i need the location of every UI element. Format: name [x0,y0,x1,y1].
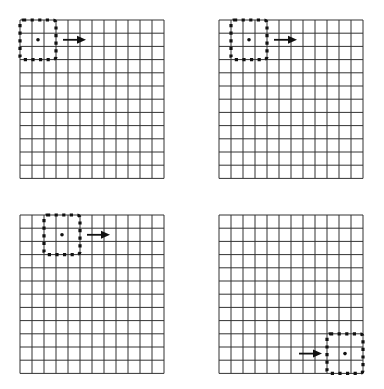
grid-panel-bottom-right [213,209,369,379]
grid-panel-bottom-left [14,209,170,379]
window-center-dot [343,352,347,356]
window-center-dot [36,38,40,42]
grid [14,209,170,379]
arrow-right-icon [63,36,86,44]
arrow-right-icon [87,231,110,239]
grid [213,209,369,379]
window-center-dot [247,38,251,42]
window-center-dot [60,233,64,237]
grid [213,14,369,184]
grid-panel-top-right [213,14,369,184]
arrow-right-icon [274,36,297,44]
arrow-right-icon [299,350,322,358]
grid [14,14,170,184]
grid-panel-top-left [14,14,170,184]
